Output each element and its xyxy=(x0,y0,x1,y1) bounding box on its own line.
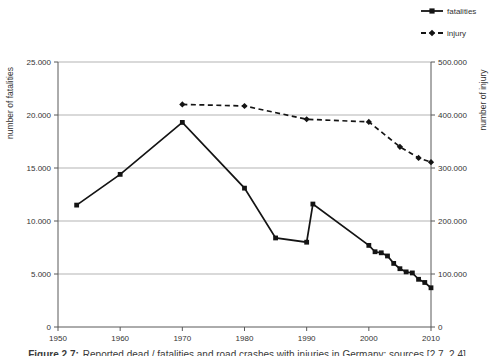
x-tick-label: 1990 xyxy=(298,334,316,343)
marker-square-fatalities xyxy=(180,120,185,125)
legend-marker-square xyxy=(429,8,434,13)
x-tick-label: 1980 xyxy=(236,334,254,343)
marker-square-fatalities xyxy=(416,277,421,282)
marker-diamond-injury xyxy=(179,101,185,107)
marker-diamond-injury xyxy=(428,159,434,165)
marker-square-fatalities xyxy=(310,202,315,207)
series-line-fatalities xyxy=(77,122,431,287)
left-tick-label: 25.000 xyxy=(27,58,52,67)
marker-diamond-injury xyxy=(241,103,247,109)
x-tick-label: 1950 xyxy=(49,334,67,343)
marker-square-fatalities xyxy=(429,285,434,290)
line-chart: 05.00010.00015.00020.00025.0000100.00020… xyxy=(0,0,494,356)
figure-caption-text: Reported dead / fatalities and road cras… xyxy=(83,349,466,356)
x-tick-label: 1960 xyxy=(111,334,129,343)
left-tick-label: 20.000 xyxy=(27,111,52,120)
marker-square-fatalities xyxy=(404,269,409,274)
marker-square-fatalities xyxy=(273,236,278,241)
marker-diamond-injury xyxy=(304,116,310,122)
legend-marker-diamond xyxy=(429,30,436,37)
legend-label-injury: injury xyxy=(447,29,466,38)
right-tick-label: 400.000 xyxy=(438,111,467,120)
left-tick-label: 15.000 xyxy=(27,164,52,173)
series-line-injury xyxy=(182,104,431,162)
right-axis-title: number of injury xyxy=(478,69,488,131)
legend-label-fatalities: fatalities xyxy=(447,7,476,16)
marker-square-fatalities xyxy=(398,266,403,271)
marker-square-fatalities xyxy=(391,261,396,266)
right-tick-label: 0 xyxy=(438,323,443,332)
marker-square-fatalities xyxy=(385,254,390,259)
marker-square-fatalities xyxy=(379,250,384,255)
right-tick-label: 200.000 xyxy=(438,217,467,226)
chart-figure: 05.00010.00015.00020.00025.0000100.00020… xyxy=(0,0,494,356)
marker-square-fatalities xyxy=(304,240,309,245)
left-tick-label: 10.000 xyxy=(27,217,52,226)
marker-square-fatalities xyxy=(422,280,427,285)
marker-square-fatalities xyxy=(410,271,415,276)
marker-square-fatalities xyxy=(366,243,371,248)
right-tick-label: 300.000 xyxy=(438,164,467,173)
x-tick-label: 1970 xyxy=(173,334,191,343)
figure-caption: Figure 2.7:Reported dead / fatalities an… xyxy=(0,349,494,356)
marker-square-fatalities xyxy=(74,203,79,208)
left-tick-label: 5.000 xyxy=(31,270,52,279)
marker-square-fatalities xyxy=(373,249,378,254)
figure-caption-number: Figure 2.7: xyxy=(28,349,79,356)
left-axis-title: number of fatalities xyxy=(5,67,15,139)
left-tick-label: 0 xyxy=(47,323,52,332)
x-tick-label: 2000 xyxy=(360,334,378,343)
x-tick-label: 2010 xyxy=(422,334,440,343)
marker-square-fatalities xyxy=(242,186,247,191)
marker-square-fatalities xyxy=(118,172,123,177)
right-tick-label: 500.000 xyxy=(438,58,467,67)
right-tick-label: 100.000 xyxy=(438,270,467,279)
